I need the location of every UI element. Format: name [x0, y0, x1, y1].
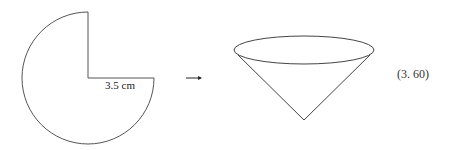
radius-label: 3.5 cm	[105, 79, 135, 91]
answer-label: (3. 60)	[397, 67, 429, 82]
diagram-canvas	[0, 0, 455, 150]
arrow-icon	[186, 76, 202, 80]
circular-sector	[22, 12, 154, 144]
cone-figure	[234, 36, 374, 120]
